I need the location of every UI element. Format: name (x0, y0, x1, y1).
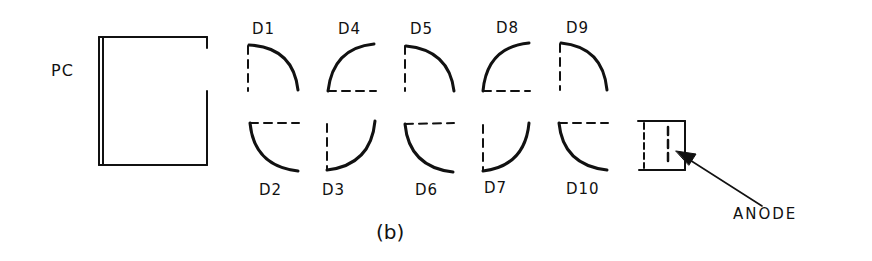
figure-caption: (b) (376, 222, 404, 242)
dynode-label-d2: D2 (259, 183, 282, 198)
dynode-d4 (328, 44, 376, 91)
dynode-d5 (405, 46, 454, 91)
dynode-label-d1: D1 (252, 22, 275, 37)
dynode-label-d8: D8 (496, 21, 519, 36)
anode-label: ANODE (733, 207, 797, 222)
dynode-d8 (483, 43, 530, 91)
dynode-label-d6: D6 (415, 183, 438, 198)
dynode-label-d3: D3 (322, 183, 345, 198)
anode-pointer-arrow (676, 151, 762, 206)
dynode-d9 (560, 43, 607, 90)
dynode-d3 (327, 121, 375, 170)
dynode-label-d10: D10 (566, 182, 600, 197)
dynode-label-d4: D4 (338, 22, 361, 37)
dynode-label-d5: D5 (410, 22, 433, 37)
dynode-label-d9: D9 (566, 21, 589, 36)
dynode-label-d7: D7 (484, 181, 507, 196)
photocathode-label: PC (51, 63, 74, 79)
dynode-d10 (559, 123, 608, 170)
dynode-d1 (248, 45, 298, 91)
dynode-d6 (405, 123, 454, 172)
dynode-d2 (250, 123, 299, 171)
photocathode (99, 37, 207, 165)
anode (638, 121, 685, 170)
dynode-d7 (483, 123, 529, 171)
